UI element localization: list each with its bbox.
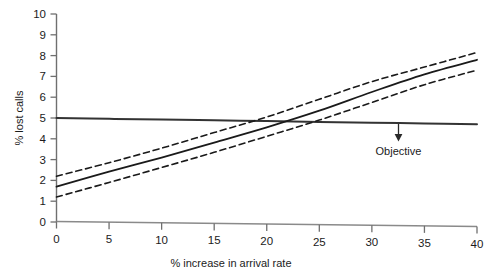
lost-calls-line-chart: 012345678910 % lost calls 05101520253035… [0, 0, 487, 277]
objective-annotation-label: Objective [376, 145, 422, 157]
y-tick-label: 3 [40, 154, 46, 166]
y-tick-label: 6 [40, 91, 46, 103]
x-tick-label: 25 [313, 236, 326, 248]
y-tick-label: 0 [40, 216, 46, 228]
y-tick-label: 9 [40, 29, 46, 41]
x-tick-label: 20 [260, 235, 273, 247]
y-tick-label: 10 [33, 8, 46, 20]
chart-container: 012345678910 % lost calls 05101520253035… [0, 0, 487, 277]
x-tick-label: 10 [155, 234, 168, 246]
x-tick-label: 35 [418, 237, 431, 249]
y-tick-label: 7 [40, 70, 46, 82]
y-axis-title: % lost calls [13, 90, 25, 146]
y-tick-label: 2 [40, 174, 46, 186]
y-tick-label: 5 [40, 112, 46, 124]
y-tick-label: 8 [40, 50, 46, 62]
y-tick-label: 1 [40, 195, 46, 207]
chart-background [0, 0, 487, 277]
x-axis-title: % increase in arrival rate [170, 257, 291, 269]
x-tick-label: 15 [208, 234, 221, 246]
x-tick-label: 5 [106, 233, 112, 245]
x-tick-label: 0 [53, 233, 59, 245]
y-tick-label: 4 [40, 133, 47, 145]
x-tick-label: 30 [365, 236, 378, 248]
x-tick-label: 40 [471, 238, 484, 250]
